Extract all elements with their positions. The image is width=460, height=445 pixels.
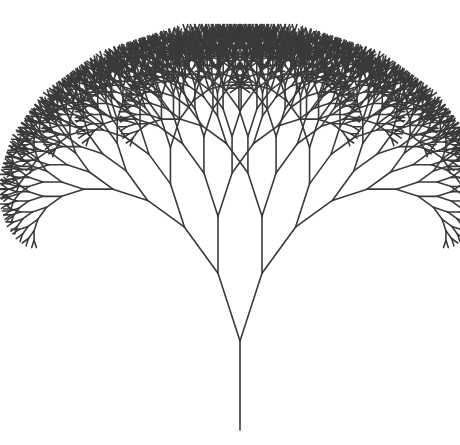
fractal-tree-drawing [0,0,460,445]
